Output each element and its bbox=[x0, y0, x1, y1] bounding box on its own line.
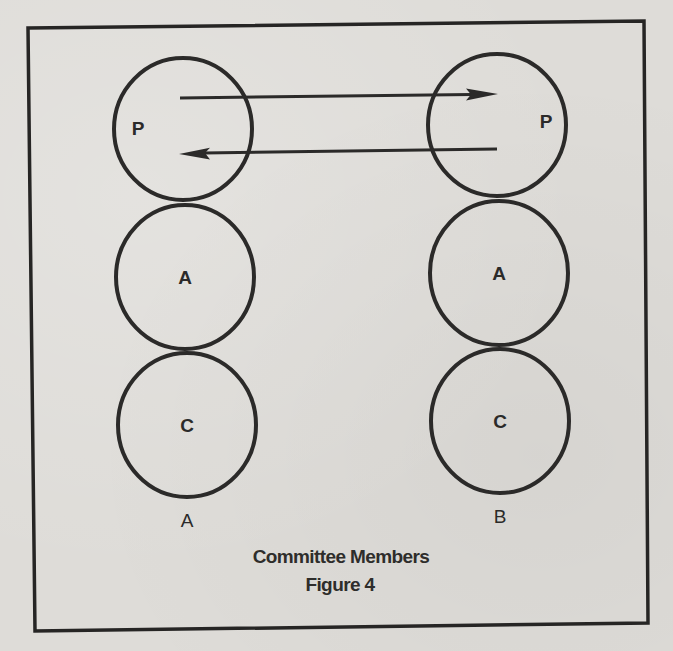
arrow-left-icon bbox=[179, 148, 497, 160]
column-a: P A C A bbox=[114, 58, 256, 531]
figure-caption-number: Figure 4 bbox=[305, 574, 375, 595]
figure-canvas: P A C A P A C B Committee bbox=[0, 0, 673, 651]
figure-frame bbox=[28, 21, 648, 631]
node-label-b-p: P bbox=[540, 111, 553, 132]
node-label-a-c: C bbox=[180, 415, 194, 436]
arrow-right-icon bbox=[180, 89, 498, 101]
node-label-b-c: C bbox=[493, 411, 507, 432]
node-label-a-a: A bbox=[178, 267, 192, 288]
column-b: P A C B bbox=[428, 54, 569, 527]
column-label-a: A bbox=[181, 510, 194, 531]
node-label-b-a: A bbox=[492, 263, 506, 284]
committee-diagram: P A C A P A C B Committee bbox=[0, 0, 673, 651]
node-label-a-p: P bbox=[132, 118, 145, 139]
column-label-b: B bbox=[494, 506, 507, 527]
figure-caption-title: Committee Members bbox=[253, 546, 430, 567]
